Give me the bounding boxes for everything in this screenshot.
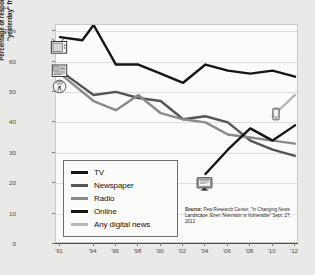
y-tick-label-10: 10 (0, 209, 16, 216)
x-tick-label-91: '91 (55, 248, 63, 254)
x-tick-mark-2012 (294, 243, 295, 246)
x-tick-mark-2002 (182, 243, 183, 246)
x-tick-label-96: '96 (111, 248, 119, 254)
x-tick-label-98: '98 (133, 248, 141, 254)
legend-item-online[interactable]: Online (71, 205, 171, 218)
legend-item-newspaper[interactable]: Newspaper (71, 179, 171, 192)
x-tick-mark-2006 (227, 243, 228, 246)
legend-label: TV (94, 169, 104, 177)
y-tick-mark-70 (52, 30, 55, 31)
legend-swatch-icon (71, 171, 88, 174)
y-tick-mark-20 (52, 182, 55, 183)
y-tick-mark-50 (52, 91, 55, 92)
source-attribution: Source: Pew Research Center, "In Changin… (185, 207, 293, 226)
x-tick-label-08: '08 (245, 248, 253, 254)
x-tick-mark-2008 (249, 243, 250, 246)
legend-label: Any digital news (94, 221, 150, 229)
y-tick-mark-0 (52, 243, 55, 244)
series-line-newspaper (60, 71, 295, 156)
x-tick-label-02: '02 (178, 248, 186, 254)
x-tick-label-94: '94 (89, 248, 97, 254)
legend-item-radio[interactable]: Radio (71, 192, 171, 205)
legend-swatch-icon (71, 210, 88, 213)
x-tick-mark-1991 (59, 243, 60, 246)
y-tick-label-0: 0 (0, 240, 16, 247)
x-tick-mark-2004 (204, 243, 205, 246)
y-tick-label-30: 30 (0, 148, 16, 155)
x-tick-label-04: '04 (201, 248, 209, 254)
x-tick-label-10: '10 (268, 248, 276, 254)
chart-legend: TVNewspaperRadioOnlineAny digital news (63, 160, 178, 237)
desktop-computer-icon (196, 175, 213, 192)
y-tick-label-70: 70% (0, 27, 16, 34)
mobile-phone-icon (269, 107, 283, 121)
x-axis-line (55, 243, 298, 244)
y-tick-mark-60 (52, 61, 55, 62)
x-tick-label-06: '06 (223, 248, 231, 254)
legend-label: Newspaper (94, 182, 134, 190)
chart-figure: Percentage of respondents who got their … (0, 0, 315, 275)
television-icon (50, 37, 68, 55)
x-tick-mark-1994 (93, 243, 94, 246)
source-label: Source: (185, 207, 202, 212)
newspaper-icon (51, 62, 68, 79)
legend-swatch-icon (71, 184, 88, 187)
y-tick-label-60: 60 (0, 57, 16, 64)
legend-item-tv[interactable]: TV (71, 166, 171, 179)
y-tick-label-20: 20 (0, 179, 16, 186)
series-line-tv (60, 25, 295, 83)
y-tick-mark-10 (52, 213, 55, 214)
series-line-online (205, 125, 295, 174)
legend-label: Radio (94, 195, 114, 203)
x-tick-mark-2010 (272, 243, 273, 246)
y-tick-mark-40 (52, 121, 55, 122)
legend-swatch-icon (71, 223, 88, 226)
y-tick-label-40: 40 (0, 118, 16, 125)
x-tick-mark-1998 (137, 243, 138, 246)
y-tick-mark-30 (52, 152, 55, 153)
legend-label: Online (94, 208, 117, 216)
x-tick-mark-1996 (115, 243, 116, 246)
legend-swatch-icon (71, 197, 88, 200)
legend-item-any-digital-news[interactable]: Any digital news (71, 218, 171, 231)
y-tick-label-50: 50 (0, 87, 16, 94)
x-tick-label-12: '12 (290, 248, 298, 254)
x-tick-label-00: '00 (156, 248, 164, 254)
x-tick-mark-2000 (160, 243, 161, 246)
